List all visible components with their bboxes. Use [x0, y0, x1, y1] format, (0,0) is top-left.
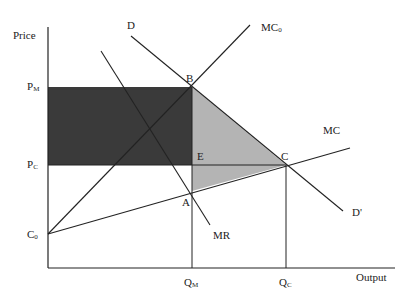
point-a-label: A: [182, 196, 190, 208]
point-b-label: B: [186, 72, 193, 84]
x-axis-label: Output: [356, 271, 387, 283]
mc0-label: MC0: [261, 21, 282, 36]
demand-label: D: [127, 19, 135, 31]
qc-label: QC: [279, 276, 292, 291]
mc-label: MC: [323, 124, 340, 136]
demand-prime-label: D': [352, 206, 362, 218]
mr-label: MR: [213, 229, 230, 241]
pm-label: PM: [27, 80, 39, 95]
pc-label: PC: [27, 158, 38, 173]
light-triangle-region: [192, 87, 286, 191]
y-axis-label: Price: [13, 29, 36, 41]
point-e-label: E: [197, 150, 204, 162]
qm-label: QM: [184, 276, 198, 291]
c0-label: C0: [27, 228, 38, 243]
monopoly-diagram: [0, 0, 413, 300]
point-c-label: C: [281, 150, 288, 162]
dark-rectangle-region: [48, 87, 192, 165]
